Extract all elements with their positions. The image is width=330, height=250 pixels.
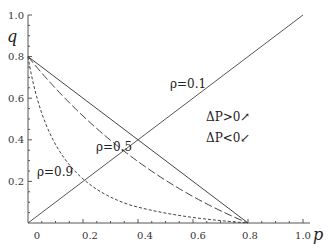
x-tick: 1.0: [295, 230, 311, 241]
label-rho-0.5: ρ=0.5: [96, 140, 132, 154]
label-dp-positive: ΔP>0: [206, 110, 240, 124]
label-dp-negative: ΔP<0: [206, 131, 240, 145]
y-axis-label: q: [7, 27, 17, 46]
x-tick-labels: 0 0.2 0.4 0.6 0.8 1.0: [34, 230, 311, 241]
axes: [28, 15, 310, 223]
arrow-up-right-icon: ↗: [240, 110, 250, 124]
y-tick: 1.0: [8, 10, 24, 21]
x-axis-label: p: [313, 225, 323, 244]
series-diagonal: [28, 15, 303, 223]
label-rho-0.9: ρ=0.9: [37, 165, 73, 179]
y-tick: 0.6: [8, 93, 24, 104]
chart: 0 0.2 0.4 0.6 0.8 1.0 0.2 0.4 0.6 0.8 1.…: [0, 0, 330, 250]
label-rho-0.1: ρ=0.1: [170, 77, 206, 91]
arrow-down-left-icon: ↙: [240, 131, 250, 145]
y-tick: 0.2: [8, 176, 24, 187]
x-tick: 0.8: [242, 230, 258, 241]
x-tick: 0.4: [137, 230, 153, 241]
x-tick: 0.6: [190, 230, 206, 241]
x-tick: 0: [34, 230, 40, 241]
y-tick: 0.8: [8, 51, 24, 62]
y-tick: 0.4: [8, 134, 24, 145]
x-tick: 0.2: [82, 230, 98, 241]
